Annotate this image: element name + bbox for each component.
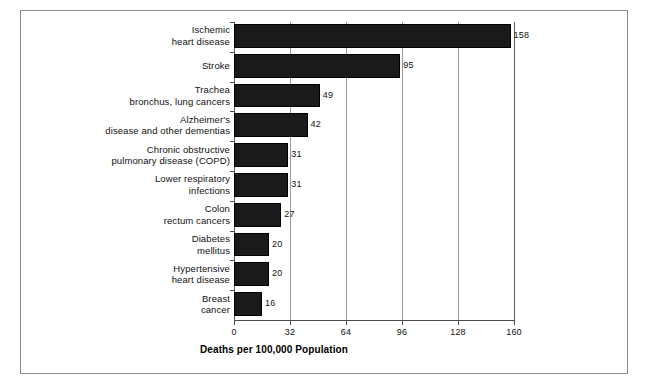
bar-value-label: 31 (291, 149, 301, 159)
bar[interactable] (234, 113, 308, 137)
category-label-line: Breast (201, 293, 230, 305)
x-tick-160 (514, 320, 515, 325)
bar-value-label: 20 (272, 268, 282, 278)
bar-row (234, 113, 514, 137)
category-label-line: infections (155, 185, 230, 197)
category-label: Tracheabronchus, lung cancers (130, 84, 230, 107)
category-label-line: heart disease (172, 274, 230, 286)
bar-value-label: 27 (284, 209, 294, 219)
x-tick-32 (290, 320, 291, 325)
y-tick (230, 171, 234, 172)
category-label-line: Alzheimer's (105, 114, 230, 126)
x-axis-title-text: Deaths per 100,000 Population (200, 344, 348, 355)
category-label: Ischemicheart disease (172, 24, 230, 47)
category-label-line: Lower respiratory (155, 173, 230, 185)
x-tick-label-32: 32 (285, 327, 295, 337)
category-label-line: Diabetes (192, 233, 230, 245)
category-label: Alzheimer'sdisease and other dementias (105, 114, 230, 137)
bar-row (234, 24, 514, 48)
y-tick (230, 231, 234, 232)
bar-value-label: 42 (311, 119, 321, 129)
category-label-line: mellitus (192, 245, 230, 257)
category-label-line: Ischemic (172, 24, 230, 36)
category-label-line: Chronic obstructive (111, 144, 230, 156)
bar[interactable] (234, 292, 262, 316)
bar[interactable] (234, 173, 288, 197)
bar-row (234, 203, 514, 227)
bar-value-label: 31 (291, 179, 301, 189)
bar[interactable] (234, 233, 269, 257)
category-label-line: cancer (201, 304, 230, 316)
bar[interactable] (234, 84, 320, 108)
y-tick (230, 52, 234, 53)
x-tick-0 (234, 320, 235, 325)
bar[interactable] (234, 262, 269, 286)
bar-value-label: 95 (403, 60, 413, 70)
x-tick-96 (402, 320, 403, 325)
category-label-line: Trachea (130, 84, 230, 96)
bar-row (234, 292, 514, 316)
x-tick-label-96: 96 (397, 327, 407, 337)
bar-row (234, 54, 514, 78)
y-tick (230, 22, 234, 23)
y-tick (230, 260, 234, 261)
x-tick-label-160: 160 (506, 327, 522, 337)
x-tick-label-64: 64 (341, 327, 351, 337)
category-label: Stroke (202, 60, 230, 72)
x-axis-line (234, 320, 515, 321)
bar[interactable] (234, 24, 511, 48)
category-label: Lower respiratoryinfections (155, 173, 230, 196)
category-label-line: disease and other dementias (105, 125, 230, 137)
x-tick-label-128: 128 (450, 327, 466, 337)
gridline-x-160 (514, 22, 515, 320)
bar-value-label: 49 (323, 90, 333, 100)
x-tick-label-0: 0 (231, 327, 236, 337)
y-tick (230, 290, 234, 291)
bar[interactable] (234, 203, 281, 227)
category-label-line: Colon (164, 203, 230, 215)
x-tick-128 (458, 320, 459, 325)
category-label-line: pulmonary disease (COPD) (111, 155, 230, 167)
bar[interactable] (234, 143, 288, 167)
x-axis-title: Deaths per 100,000 Population (0, 344, 648, 355)
category-label-line: bronchus, lung cancers (130, 96, 230, 108)
y-tick (230, 201, 234, 202)
y-tick (230, 111, 234, 112)
bar-row (234, 173, 514, 197)
category-label: Colonrectum cancers (164, 203, 230, 226)
category-label-line: Stroke (202, 60, 230, 72)
bar-value-label: 158 (514, 30, 530, 40)
bar-row (234, 84, 514, 108)
y-tick (230, 82, 234, 83)
chart-figure: Deaths per 100,000 Population 0326496128… (0, 0, 648, 389)
bar-row (234, 143, 514, 167)
category-label: Chronic obstructivepulmonary disease (CO… (111, 144, 230, 167)
category-label: Breastcancer (201, 293, 230, 316)
bar-value-label: 16 (265, 298, 275, 308)
category-label-line: rectum cancers (164, 215, 230, 227)
bar-value-label: 20 (272, 239, 282, 249)
bar[interactable] (234, 54, 400, 78)
category-label: Diabetesmellitus (192, 233, 230, 256)
y-tick (230, 141, 234, 142)
category-label-line: Hypertensive (172, 263, 230, 275)
category-label: Hypertensiveheart disease (172, 263, 230, 286)
x-tick-64 (346, 320, 347, 325)
category-label-line: heart disease (172, 36, 230, 48)
